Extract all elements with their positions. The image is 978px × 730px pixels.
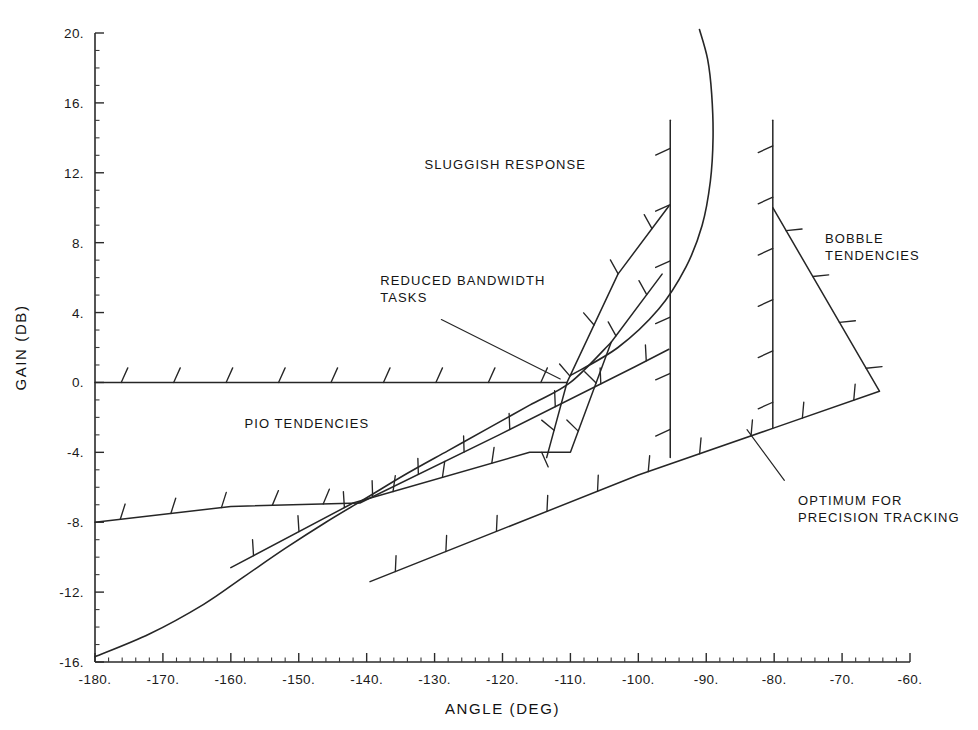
- y-axis-tick-label: 20.: [64, 26, 84, 41]
- boundary-hatch-mark: [221, 492, 226, 507]
- boundary-hatch-mark: [866, 367, 882, 369]
- plot-canvas: 20.16.12.8.4.0.-4.-8.-12.-16.-180.-170.-…: [0, 0, 978, 730]
- boundary-hatch-mark: [600, 368, 601, 384]
- boundary-hatch-mark: [648, 456, 649, 472]
- x-axis-tick-label: -70.: [830, 672, 855, 687]
- x-axis-tick-label: -110.: [555, 672, 587, 687]
- boundary-hatch-mark: [585, 372, 596, 383]
- annotation-label-reduced-bandwidth-tasks: TASKS: [380, 290, 427, 305]
- boundary-hatch-mark: [121, 368, 128, 383]
- boundary-hatch-mark: [488, 368, 495, 383]
- x-axis-tick-label: -160.: [214, 672, 247, 687]
- y-axis-title: GAIN (DB): [12, 304, 29, 390]
- boundary-hatch-mark: [758, 146, 773, 153]
- y-axis-tick-label: -8.: [67, 515, 84, 530]
- ticks-group: [95, 33, 910, 662]
- x-axis-tick-label: -80.: [762, 672, 787, 687]
- x-axis-title: ANGLE (DEG): [445, 700, 560, 717]
- boundary-hatch-mark: [323, 489, 329, 504]
- boundary-hatch-mark: [171, 498, 176, 513]
- boundary-hatch-mark: [464, 436, 465, 452]
- boundary-hatch-mark: [253, 540, 254, 556]
- gain-phase-boundary-chart: 20.16.12.8.4.0.-4.-8.-12.-16.-180.-170.-…: [0, 0, 978, 730]
- boundary-hatch-mark: [120, 504, 125, 519]
- x-axis-tick-label: -90.: [694, 672, 719, 687]
- boundary-hatch-mark: [758, 300, 773, 307]
- boundary-hatch-mark: [656, 373, 671, 380]
- y-axis-tick-label: 16.: [64, 96, 84, 111]
- boundary-hatch-mark: [383, 368, 390, 383]
- boundary-hatch-mark: [645, 345, 646, 361]
- boundary-hatch-mark: [547, 495, 548, 511]
- boundary-hatch-mark: [372, 481, 373, 497]
- boundary-hatch-mark: [436, 368, 443, 383]
- boundary-hatch-mark: [272, 491, 278, 506]
- y-axis-tick-label: 12.: [64, 166, 84, 181]
- boundary-hatch-mark: [560, 364, 570, 376]
- boundary-hatch-mark: [598, 475, 599, 491]
- y-axis-tick-label: 8.: [72, 236, 84, 251]
- boundary-curve-lower-left-smooth-boundary: [95, 342, 611, 657]
- x-axis-tick-label: -150.: [282, 672, 315, 687]
- boundary-hatch-mark: [608, 322, 616, 336]
- annotation-label-optimum-for-precision-tracking: OPTIMUM FOR: [798, 493, 903, 508]
- boundary-hatch-mark: [656, 429, 671, 436]
- boundary-hatch-mark: [854, 384, 855, 400]
- axes-group: [95, 33, 910, 662]
- boundary-hatch-mark: [418, 458, 419, 474]
- annotation-label-bobble-tendencies: BOBBLE: [825, 231, 884, 246]
- annotation-label-reduced-bandwidth-tasks: REDUCED BANDWIDTH: [380, 273, 545, 288]
- boundary-hatch-mark: [584, 313, 594, 325]
- boundary-hatch-mark: [813, 275, 829, 277]
- y-axis-tick-label: -16.: [59, 655, 84, 670]
- x-axis-tick-label: -100.: [622, 672, 655, 687]
- boundary-curve-pio-lower-boundary: [95, 349, 669, 522]
- boundary-hatch-mark: [331, 368, 338, 383]
- boundary-hatch-mark: [279, 368, 286, 383]
- boundary-hatch-mark: [656, 317, 671, 324]
- annotation-label-bobble-tendencies: TENDENCIES: [825, 248, 920, 263]
- annotation-label-optimum-for-precision-tracking: PRECISION TRACKING: [798, 510, 960, 525]
- boundary-hatch-mark: [509, 414, 510, 430]
- x-axis-tick-label: -170.: [147, 672, 180, 687]
- annotations-group: SLUGGISH RESPONSEREDUCED BANDWIDTHTASKSP…: [244, 157, 959, 524]
- boundary-curve-reduced-bandwidth-upper-boundary: [547, 206, 669, 458]
- boundary-hatch-mark: [226, 368, 233, 383]
- boundary-hatch-mark: [639, 281, 647, 295]
- boundary-hatch-mark: [758, 402, 773, 409]
- boundary-hatch-mark: [656, 148, 671, 155]
- boundary-hatch-mark: [492, 447, 494, 463]
- boundary-hatch-mark: [542, 420, 554, 430]
- boundary-hatch-mark: [442, 462, 444, 478]
- hatch-marks-group: [120, 146, 882, 572]
- boundary-hatch-mark: [751, 420, 752, 436]
- boundary-hatch-mark: [343, 492, 344, 508]
- x-axis-tick-label: -180.: [79, 672, 112, 687]
- annotation-leader-optimum-for-precision-tracking: [747, 430, 784, 481]
- boundary-hatch-mark: [802, 402, 803, 418]
- boundary-hatch-mark: [758, 248, 773, 255]
- boundary-hatch-mark: [298, 516, 299, 532]
- annotation-label-pio-tendencies: PIO TENDENCIES: [244, 416, 369, 431]
- y-axis-tick-label: 0.: [72, 375, 84, 390]
- boundary-hatch-mark: [758, 197, 773, 204]
- boundary-hatch-mark: [567, 420, 578, 431]
- boundary-hatch-mark: [555, 391, 556, 407]
- annotation-leader-reduced-bandwidth-tasks: [441, 320, 560, 379]
- boundary-hatch-mark: [839, 321, 855, 323]
- x-axis-tick-label: -60.: [898, 672, 923, 687]
- tick-labels-group: 20.16.12.8.4.0.-4.-8.-12.-16.-180.-170.-…: [59, 26, 922, 687]
- annotation-label-sluggish-response: SLUGGISH RESPONSE: [424, 157, 586, 172]
- boundary-hatch-mark: [610, 260, 618, 274]
- boundary-hatch-mark: [395, 556, 396, 572]
- y-axis-tick-label: 4.: [72, 306, 84, 321]
- boundary-curves-group: [95, 30, 879, 657]
- boundary-hatch-mark: [393, 476, 395, 492]
- y-axis-tick-label: -4.: [67, 445, 84, 460]
- x-axis-tick-label: -140.: [350, 672, 383, 687]
- boundary-hatch-mark: [758, 351, 773, 358]
- boundary-curve-optimum-precision-tracking-boundary: [370, 391, 879, 581]
- x-axis-tick-label: -130.: [418, 672, 451, 687]
- y-axis-tick-label: -12.: [59, 585, 84, 600]
- boundary-hatch-mark: [496, 515, 497, 531]
